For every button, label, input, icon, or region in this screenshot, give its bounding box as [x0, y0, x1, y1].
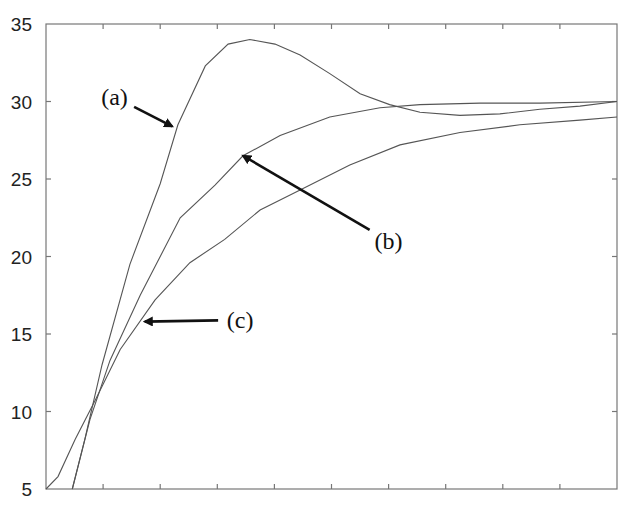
plot-frame — [46, 24, 617, 489]
annotation-arrow-c — [145, 320, 218, 321]
y-tick-label: 20 — [11, 247, 32, 268]
annotations: (a)(b)(c) — [101, 84, 402, 333]
y-tick-label: 15 — [11, 324, 32, 345]
axis-ticks — [46, 24, 617, 489]
curve-c — [46, 117, 617, 489]
annotation-label-a: (a) — [101, 84, 128, 110]
curve-a — [72, 40, 617, 490]
y-axis-tick-labels: 5101520253035 — [11, 14, 32, 500]
annotation-label-b: (b) — [375, 228, 403, 254]
curve-b — [72, 102, 617, 490]
annotation-label-c: (c) — [227, 307, 254, 333]
y-tick-label: 25 — [11, 169, 32, 190]
line-chart: 5101520253035 (a)(b)(c) — [0, 0, 627, 509]
annotation-arrow-a — [134, 107, 172, 126]
annotation-arrow-b — [243, 156, 370, 230]
y-tick-label: 5 — [21, 479, 32, 500]
y-tick-label: 30 — [11, 92, 32, 113]
curves — [46, 40, 617, 490]
y-tick-label: 35 — [11, 14, 32, 35]
y-tick-label: 10 — [11, 402, 32, 423]
